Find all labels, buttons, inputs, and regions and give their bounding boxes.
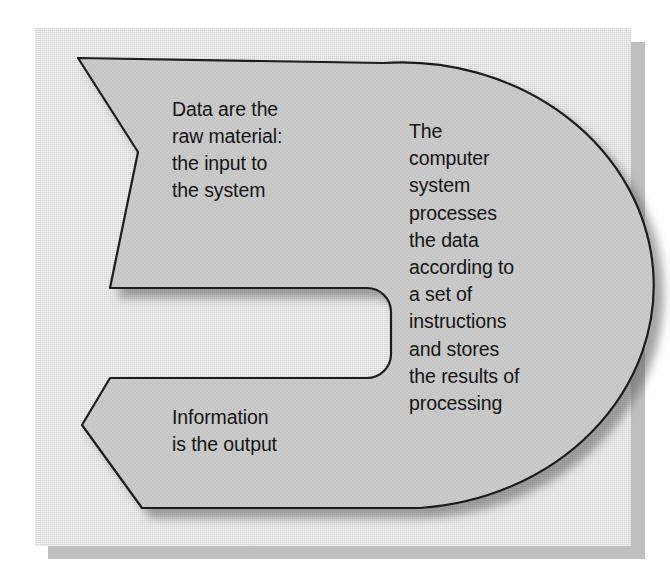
output-stage-text: Information is the output <box>172 404 387 458</box>
input-stage-text: Data are the raw material: the input to … <box>172 96 387 204</box>
process-shape-graphic <box>0 0 670 585</box>
processing-stage-text: The computer system processes the data a… <box>409 118 557 417</box>
diagram-canvas: Data are the raw material: the input to … <box>0 0 670 585</box>
